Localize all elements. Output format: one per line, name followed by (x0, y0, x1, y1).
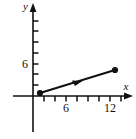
y-axis-ticks (33, 21, 39, 85)
y-axis-arrow-icon (30, 3, 37, 12)
coordinate-plot: 6 12 6 y x (0, 0, 136, 139)
x-axis-label: x (123, 80, 129, 92)
x-tick-label-12: 12 (104, 101, 116, 115)
y-tick-label-6: 6 (22, 57, 28, 71)
data-point-start (37, 90, 43, 96)
y-axis-label: y (22, 0, 28, 12)
graph-figure: 6 12 6 y x (0, 0, 136, 139)
direction-arrow-icon (72, 81, 83, 86)
x-axis-arrow-icon (124, 93, 133, 100)
data-point-end (112, 67, 118, 73)
x-tick-label-6: 6 (63, 101, 69, 115)
